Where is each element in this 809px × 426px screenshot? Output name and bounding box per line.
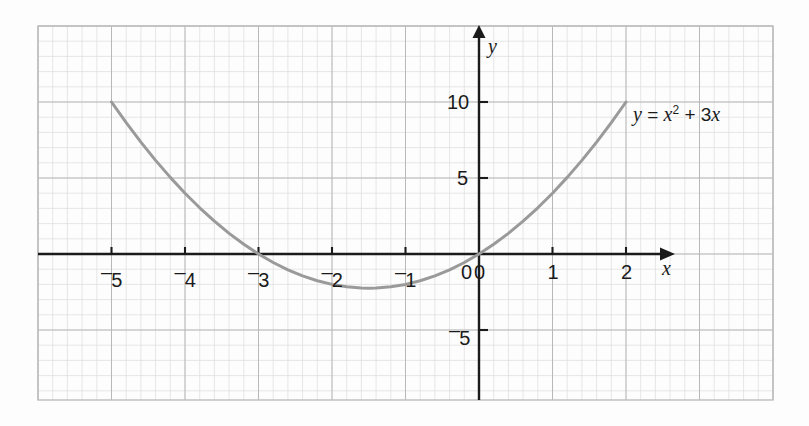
- graph-figure: y x y = x2 + 3x –5–4–3–2–1012–55100: [0, 0, 809, 426]
- x-tick-label-7: 2: [621, 262, 632, 282]
- x-tick-label-6: 1: [548, 262, 559, 282]
- y-tick-label-0: –5: [449, 320, 470, 348]
- y-axis-label: y: [488, 36, 497, 56]
- coordinate-plot: [0, 0, 809, 426]
- equation-annotation: y = x2 + 3x: [633, 104, 720, 124]
- x-tick-label-0: –5: [101, 262, 122, 290]
- minus-sign-icon: –: [395, 262, 406, 282]
- x-axis-label: x: [662, 258, 671, 278]
- x-tick-label-2: –3: [248, 262, 269, 290]
- x-tick-label-3: –2: [322, 262, 343, 290]
- y-tick-label-2: 10: [447, 92, 469, 112]
- minus-sign-icon: –: [248, 262, 259, 282]
- minus-sign-icon: –: [322, 262, 333, 282]
- x-tick-label-5: 0: [474, 262, 485, 282]
- x-tick-label-4: –1: [395, 262, 416, 290]
- y-tick-label-1: 5: [457, 168, 468, 188]
- minus-sign-icon: –: [449, 320, 460, 340]
- minus-sign-icon: –: [101, 262, 112, 282]
- origin-label: 0: [461, 262, 472, 282]
- minus-sign-icon: –: [175, 262, 186, 282]
- x-tick-label-1: –4: [175, 262, 196, 290]
